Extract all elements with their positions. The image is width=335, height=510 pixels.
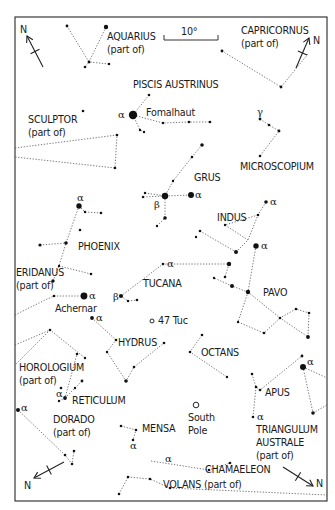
constellation-line xyxy=(40,243,66,245)
star xyxy=(268,124,271,127)
star xyxy=(135,429,138,432)
star xyxy=(16,408,20,412)
star xyxy=(306,335,310,339)
star xyxy=(280,86,283,89)
constellation-line xyxy=(222,51,308,87)
north-arrow-bottom-right: N xyxy=(283,467,323,489)
star-designation: β xyxy=(154,199,160,210)
constellation-line xyxy=(67,26,109,64)
star xyxy=(84,211,86,213)
star xyxy=(301,355,304,358)
star xyxy=(120,425,123,428)
constellation-line xyxy=(253,387,256,417)
star xyxy=(143,131,145,133)
star xyxy=(74,387,76,389)
constellation-line xyxy=(92,318,164,381)
cluster-marker-icon xyxy=(150,319,154,323)
star-designation: α xyxy=(167,258,174,269)
star xyxy=(115,339,118,342)
star xyxy=(259,118,262,121)
star xyxy=(195,236,197,238)
star xyxy=(263,332,266,335)
star xyxy=(142,196,144,198)
star xyxy=(64,454,67,457)
north-arrow-top-right: N xyxy=(296,35,320,68)
star-designation: α xyxy=(195,189,202,200)
star xyxy=(189,351,192,354)
star xyxy=(259,155,262,158)
star xyxy=(133,366,136,369)
star xyxy=(201,334,204,337)
north-arrow-bottom-left: N xyxy=(24,462,64,491)
star xyxy=(156,225,158,227)
constellation-line xyxy=(143,193,165,197)
star xyxy=(90,316,94,320)
star xyxy=(88,61,91,64)
object-label: Achernar xyxy=(55,303,97,314)
star xyxy=(73,450,76,453)
star xyxy=(162,193,168,199)
star xyxy=(82,110,85,113)
star xyxy=(64,241,68,245)
star xyxy=(279,317,282,320)
star xyxy=(255,386,258,389)
star-designation: α xyxy=(77,192,84,203)
constellation-subtitle: (part of) xyxy=(241,38,279,49)
constellation-line xyxy=(15,296,54,315)
star xyxy=(253,243,258,248)
constellation-name: OCTANS xyxy=(201,347,239,358)
star-chart: αγβααααααβααααααα AQUARIUS(part of)CAPRI… xyxy=(0,0,335,510)
constellation-line xyxy=(200,231,236,252)
constellation-line xyxy=(238,292,309,337)
constellation-name: SCULPTOR xyxy=(28,114,78,125)
constellation-name: CHAMAELEON xyxy=(205,464,271,475)
object-label: Pole xyxy=(188,425,207,436)
star xyxy=(163,216,167,220)
constellation-subtitle: (part of) xyxy=(16,280,54,291)
star xyxy=(257,214,260,217)
constellation-line xyxy=(79,206,101,213)
star xyxy=(108,63,111,66)
constellation-name: PAVO xyxy=(263,287,288,298)
star xyxy=(76,203,81,208)
north-arrow-head-icon xyxy=(306,480,313,486)
star xyxy=(234,250,238,254)
star xyxy=(76,353,79,356)
star xyxy=(221,50,224,53)
star xyxy=(106,351,108,353)
star xyxy=(127,476,130,479)
star xyxy=(162,263,165,266)
star xyxy=(58,400,60,402)
north-arrow-top-left: N xyxy=(20,24,43,67)
star xyxy=(230,284,234,288)
constellation-line xyxy=(121,426,136,440)
star xyxy=(237,321,239,323)
star xyxy=(71,463,74,466)
south-pole-marker-icon xyxy=(193,402,199,408)
star xyxy=(53,295,56,298)
constellation-name: MENSA xyxy=(142,423,176,434)
star xyxy=(104,25,108,29)
star xyxy=(300,364,306,370)
constellation-line xyxy=(313,405,327,413)
constellation-name: HOROLOGIUM xyxy=(19,362,84,373)
constellation-name: MICROSCOPIUM xyxy=(240,161,314,172)
star xyxy=(136,299,139,302)
star xyxy=(188,121,191,124)
star xyxy=(148,94,151,97)
north-arrow-tick xyxy=(298,51,307,55)
star xyxy=(162,122,164,124)
north-label: N xyxy=(313,35,320,46)
star xyxy=(259,389,262,392)
north-arrow-tick xyxy=(31,49,40,54)
star xyxy=(295,308,298,311)
star xyxy=(172,180,174,182)
north-label: N xyxy=(20,24,27,35)
star xyxy=(191,156,194,159)
constellation-name: DORADO xyxy=(53,414,95,425)
constellation-name: HYDRUS xyxy=(118,337,157,348)
star xyxy=(139,129,141,131)
star xyxy=(114,167,117,170)
north-arrow-tick xyxy=(47,466,52,475)
star xyxy=(116,134,119,137)
